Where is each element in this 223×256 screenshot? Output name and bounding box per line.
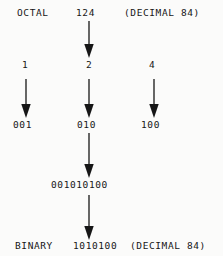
concatenated-binary-value: 001010100 (51, 179, 108, 190)
arrow-concatenated-to-binary-icon (83, 195, 95, 241)
arrow-digit-1-to-triplet-icon (20, 79, 32, 119)
binary-value: 1010100 (73, 240, 117, 251)
binary-decimal-note: (DECIMAL 84) (130, 240, 206, 251)
binary-row-label: BINARY (15, 240, 53, 251)
octal-digit-1: 1 (22, 59, 28, 70)
octal-decimal-note: (DECIMAL 84) (124, 7, 200, 18)
octal-digit-3: 4 (149, 59, 155, 70)
octal-to-binary-diagram: OCTAL 124 (DECIMAL 84) 1 2 4 001 010 100 (0, 0, 223, 256)
arrow-digit-3-to-triplet-icon (148, 79, 160, 119)
binary-triplet-3: 100 (141, 119, 160, 130)
arrow-triplets-to-concatenated-icon (83, 133, 95, 179)
arrow-digit-2-to-triplet-icon (83, 79, 95, 119)
arrow-octal-to-digits-icon (83, 21, 95, 59)
octal-row-label: OCTAL (17, 7, 49, 18)
octal-digit-2: 2 (86, 59, 92, 70)
binary-triplet-2: 010 (77, 119, 96, 130)
binary-triplet-1: 001 (13, 119, 32, 130)
octal-value: 124 (76, 7, 95, 18)
